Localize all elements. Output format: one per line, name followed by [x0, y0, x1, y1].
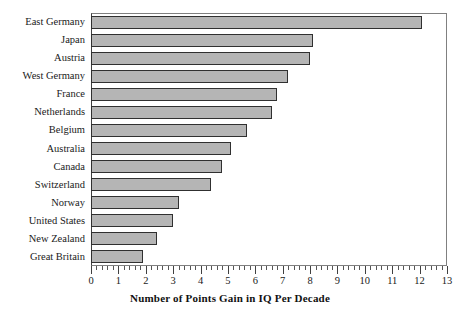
minor-tick: [348, 266, 349, 270]
x-tick-label: 1: [108, 274, 128, 287]
bar: [91, 88, 277, 101]
minor-tick: [425, 266, 426, 270]
x-axis-title: Number of Points Gain in IQ Per Decade: [0, 292, 460, 304]
major-tick: [310, 266, 311, 274]
bars-layer: [91, 13, 447, 266]
x-tick-label: 8: [300, 274, 320, 287]
category-label: Norway: [0, 197, 85, 208]
minor-tick: [266, 266, 267, 270]
minor-tick: [299, 266, 300, 270]
category-label: West Germany: [0, 70, 85, 81]
major-tick: [146, 266, 147, 274]
major-tick: [118, 266, 119, 274]
bar: [91, 250, 143, 263]
minor-tick: [179, 266, 180, 270]
major-tick: [365, 266, 366, 274]
bar: [91, 196, 179, 209]
minor-tick: [129, 266, 130, 270]
x-tick-label: 5: [218, 274, 238, 287]
major-tick: [420, 266, 421, 274]
minor-tick: [436, 266, 437, 270]
minor-tick: [376, 266, 377, 270]
minor-tick: [305, 266, 306, 270]
minor-tick: [184, 266, 185, 270]
category-label: Austria: [0, 52, 85, 63]
bar: [91, 52, 310, 65]
category-label: Canada: [0, 161, 85, 172]
bar: [91, 16, 422, 29]
minor-tick: [233, 266, 234, 270]
x-tick-label: 10: [355, 274, 375, 287]
minor-tick: [195, 266, 196, 270]
bar: [91, 34, 313, 47]
x-tick-label: 0: [81, 274, 101, 287]
bar: [91, 214, 173, 227]
minor-tick: [277, 266, 278, 270]
bar: [91, 106, 272, 119]
bar: [91, 232, 157, 245]
major-tick: [283, 266, 284, 274]
minor-tick: [316, 266, 317, 270]
major-tick: [201, 266, 202, 274]
category-label: New Zealand: [0, 233, 85, 244]
minor-tick: [321, 266, 322, 270]
minor-tick: [359, 266, 360, 270]
category-label: Great Britain: [0, 251, 85, 262]
minor-tick: [354, 266, 355, 270]
minor-tick: [442, 266, 443, 270]
minor-tick: [381, 266, 382, 270]
x-tick-label: 9: [327, 274, 347, 287]
category-label: United States: [0, 215, 85, 226]
minor-tick: [403, 266, 404, 270]
bar: [91, 160, 222, 173]
minor-tick: [370, 266, 371, 270]
minor-tick: [157, 266, 158, 270]
minor-tick: [288, 266, 289, 270]
x-tick-label: 3: [163, 274, 183, 287]
major-tick: [173, 266, 174, 274]
category-label: Japan: [0, 34, 85, 45]
x-tick-label: 12: [410, 274, 430, 287]
minor-tick: [107, 266, 108, 270]
minor-tick: [343, 266, 344, 270]
major-tick: [91, 266, 92, 274]
x-tick-label: 6: [245, 274, 265, 287]
major-tick: [255, 266, 256, 274]
x-tick-label: 2: [136, 274, 156, 287]
category-label: France: [0, 88, 85, 99]
bar: [91, 178, 211, 191]
minor-tick: [272, 266, 273, 270]
minor-tick: [387, 266, 388, 270]
minor-tick: [414, 266, 415, 270]
major-tick: [392, 266, 393, 274]
x-tick-label: 11: [382, 274, 402, 287]
minor-tick: [431, 266, 432, 270]
minor-tick: [398, 266, 399, 270]
minor-tick: [250, 266, 251, 270]
minor-tick: [124, 266, 125, 270]
minor-tick: [217, 266, 218, 270]
minor-tick: [162, 266, 163, 270]
major-tick: [228, 266, 229, 274]
category-label: Belgium: [0, 124, 85, 135]
minor-tick: [409, 266, 410, 270]
minor-tick: [190, 266, 191, 270]
x-tick-label: 7: [273, 274, 293, 287]
x-tick-label: 13: [437, 274, 457, 287]
category-label: Switzerland: [0, 179, 85, 190]
major-tick: [447, 266, 448, 274]
minor-tick: [135, 266, 136, 270]
minor-tick: [294, 266, 295, 270]
category-label: Australia: [0, 143, 85, 154]
minor-tick: [239, 266, 240, 270]
minor-tick: [244, 266, 245, 270]
bar: [91, 124, 247, 137]
x-axis-tick-labels: 012345678910111213: [91, 274, 447, 288]
minor-tick: [102, 266, 103, 270]
major-tick: [337, 266, 338, 274]
minor-tick: [327, 266, 328, 270]
category-label: East Germany: [0, 16, 85, 27]
minor-tick: [222, 266, 223, 270]
minor-tick: [113, 266, 114, 270]
minor-tick: [151, 266, 152, 270]
